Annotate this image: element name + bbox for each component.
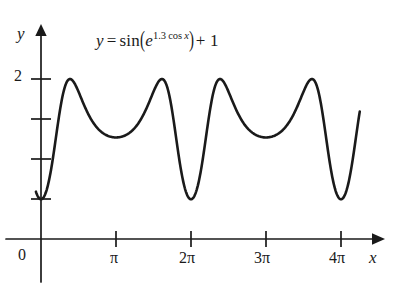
equation-exponent-coefficient: 1.3 [153, 30, 166, 41]
equation-inner-exponent: 1.3 cos x [153, 30, 189, 41]
equation-added-constant: + 1 [196, 31, 219, 50]
y-tick-label-2: 2 [14, 67, 22, 85]
equation-exponent-function: cos [168, 30, 182, 41]
y-axis-arrowhead [35, 24, 46, 36]
equation-annotation: y=sin(e1.3 cos x) + 1 [96, 30, 219, 51]
equation-lhs: y [96, 31, 104, 50]
function-curve [36, 79, 360, 199]
x-tick-label-4pi: 4π [329, 249, 345, 267]
y-axis-label: y [17, 24, 25, 44]
equation-close-paren: ) [189, 27, 194, 53]
equation-open-paren: ( [140, 27, 145, 53]
function-graph-figure: y=sin(e1.3 cos x) + 1 y x 0 2 π 2π 3π 4π [0, 0, 395, 287]
x-axis-label: x [369, 248, 377, 268]
x-axis-arrowhead [372, 233, 385, 245]
x-tick-label-2pi: 2π [179, 249, 195, 267]
equation-inner-base: e [145, 31, 153, 50]
origin-label: 0 [18, 246, 26, 264]
x-tick-label-pi: π [110, 249, 118, 267]
equation-relation: = [107, 31, 117, 50]
x-tick-label-3pi: 3π [254, 249, 270, 267]
equation-function-name: sin [120, 31, 140, 50]
